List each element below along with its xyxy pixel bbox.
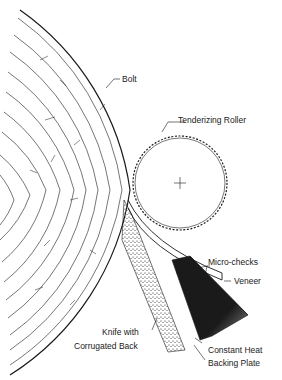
label-backing-line1: Constant Heat bbox=[208, 345, 262, 355]
bolt bbox=[0, 10, 130, 375]
veneer-lathe-diagram bbox=[0, 0, 282, 380]
label-tenderizing-roller: Tenderizing Roller bbox=[178, 115, 246, 125]
tenderizing-roller bbox=[133, 136, 227, 230]
label-veneer: Veneer bbox=[234, 276, 261, 286]
label-micro-checks: Micro-checks bbox=[208, 257, 258, 267]
backing-plate bbox=[172, 256, 248, 340]
label-knife-line2: Corrugated Back bbox=[74, 341, 138, 351]
label-bolt: Bolt bbox=[122, 74, 137, 84]
label-knife-line1: Knife with bbox=[102, 327, 139, 337]
faint-caption bbox=[8, 365, 274, 373]
